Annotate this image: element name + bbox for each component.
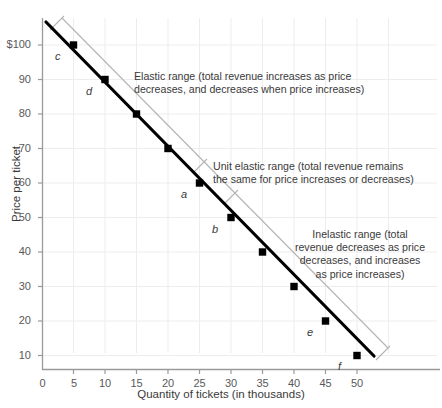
- range-bracket: [50, 16, 390, 360]
- point-label-b: b: [212, 223, 218, 235]
- point-b: [227, 214, 234, 221]
- point-c: [70, 41, 77, 48]
- y-tick-label-20: 20: [0, 314, 31, 326]
- annotation-unit-elastic-range: Unit elastic range (total revenue remain…: [213, 160, 442, 186]
- grid-lines: [42, 18, 437, 356]
- y-axis-ticks: [38, 45, 43, 356]
- point-35-40: [259, 248, 266, 255]
- x-axis-ticks: [74, 370, 358, 375]
- y-axis-title: Price per ticket: [10, 124, 22, 244]
- point-label-a: a: [181, 188, 187, 200]
- demand-curve-chart: $100 90 80 70 60 50 40 30 20 10 0 5 10 1…: [0, 0, 442, 408]
- x-axis-title: Quantity of tickets (in thousands): [0, 388, 442, 400]
- y-tick-label-100: $100: [0, 38, 31, 50]
- point-label-e: e: [307, 326, 313, 338]
- y-tick-label-90: 90: [0, 73, 31, 85]
- annotation-elastic-range: Elastic range (total revenue increases a…: [134, 70, 434, 96]
- point-label-f: f: [338, 360, 341, 372]
- point-label-d: d: [86, 85, 92, 97]
- annotation-inelastic-range: Inelastic range (total revenue decreases…: [283, 228, 437, 281]
- chart-canvas: [0, 0, 442, 408]
- y-tick-label-40: 40: [0, 245, 31, 257]
- point-label-c: c: [55, 50, 61, 62]
- y-tick-label-80: 80: [0, 107, 31, 119]
- point-40-30: [290, 283, 297, 290]
- point-e: [322, 317, 329, 324]
- point-f: [353, 352, 360, 359]
- point-a: [196, 179, 203, 186]
- bracket-cap-bottom: [376, 346, 390, 360]
- y-tick-label-30: 30: [0, 280, 31, 292]
- point-d: [101, 76, 108, 83]
- point-15-80: [133, 110, 140, 117]
- y-tick-label-10: 10: [0, 349, 31, 361]
- point-20-70: [164, 145, 171, 152]
